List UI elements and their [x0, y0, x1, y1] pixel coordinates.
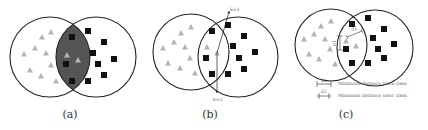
- figure-canvas: (a) k=3 k=2 (b): [0, 0, 428, 130]
- legend-label-inter: Minimum distance inter class: [338, 93, 408, 98]
- label-k3: k=3: [230, 7, 239, 12]
- square-points: [343, 15, 397, 66]
- label-k2: k=2: [213, 97, 222, 102]
- panel-b: k=3 k=2 (b): [153, 7, 278, 121]
- square-points: [203, 22, 258, 77]
- arrow-k3: [217, 12, 229, 53]
- caption-c: (c): [339, 108, 354, 121]
- panel-c: d1 d2 d1 Minimum distance intra class d2: [295, 9, 413, 121]
- d2-annotation: d2: [346, 25, 363, 39]
- svg-text:d1: d1: [321, 78, 327, 83]
- svg-text:d2: d2: [351, 25, 358, 32]
- legend-item-d2: d2 Minimum distance inter class: [317, 89, 408, 99]
- caption-b: (b): [202, 108, 218, 121]
- svg-text:d2: d2: [321, 89, 327, 94]
- svg-text:d1: d1: [332, 40, 337, 46]
- legend-label-intra: Minimum distance intra class: [338, 81, 408, 86]
- legend-item-d1: d1 Minimum distance intra class: [317, 78, 408, 87]
- caption-a: (a): [62, 108, 77, 121]
- panel-a: (a): [10, 17, 136, 121]
